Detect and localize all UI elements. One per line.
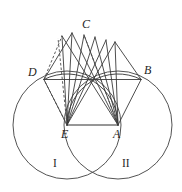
region-label-one: I bbox=[53, 158, 57, 170]
geometry-figure: C D B E A I II bbox=[0, 0, 182, 192]
point-label-a: A bbox=[113, 128, 120, 140]
point-label-d: D bbox=[28, 66, 37, 78]
segment-b-a bbox=[118, 80, 141, 126]
point-label-c: C bbox=[82, 18, 90, 30]
region-label-two: II bbox=[122, 158, 130, 170]
point-label-b: B bbox=[144, 64, 151, 76]
arc-centered-at-a bbox=[67, 74, 141, 125]
figure-canvas bbox=[0, 0, 182, 192]
segment-d-apex bbox=[44, 33, 72, 80]
fan-a-segment-1 bbox=[62, 36, 118, 125]
fan-e-segment-1 bbox=[62, 36, 67, 125]
point-label-e: E bbox=[61, 128, 68, 140]
